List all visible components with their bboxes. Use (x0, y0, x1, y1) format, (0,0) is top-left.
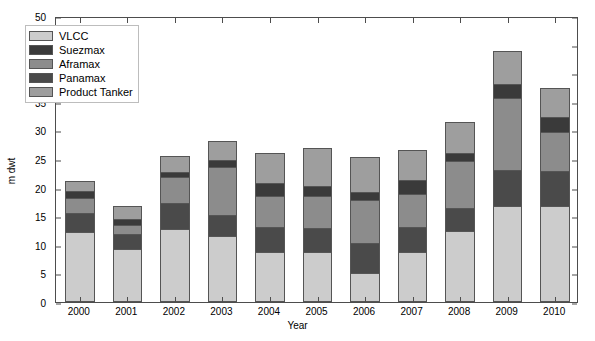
bar-segment[interactable] (350, 200, 379, 243)
bar-segment[interactable] (303, 196, 332, 227)
x-axis-tick-label: 2009 (496, 306, 518, 317)
bar-segment[interactable] (113, 219, 142, 225)
bar-segment[interactable] (398, 252, 427, 302)
legend-item-label: Suezmax (59, 44, 105, 56)
bar-segment[interactable] (113, 225, 142, 234)
bar-segment[interactable] (113, 234, 142, 249)
bar-segment[interactable] (160, 172, 189, 177)
x-axis-tick-mark (80, 297, 81, 302)
bar-stack[interactable] (493, 16, 522, 302)
bar-segment[interactable] (303, 186, 332, 196)
bar-segment[interactable] (398, 194, 427, 227)
legend-item[interactable]: VLCC (29, 29, 133, 43)
bar-segment[interactable] (303, 228, 332, 252)
bar-segment[interactable] (398, 227, 427, 252)
bar-segment[interactable] (255, 153, 284, 183)
legend-item[interactable]: Aframax (29, 57, 133, 71)
bar-segment[interactable] (540, 132, 569, 171)
y-axis-tick-mark (56, 304, 61, 305)
y-axis-tick-mark (56, 103, 61, 104)
bar-segment[interactable] (113, 206, 142, 219)
bar-segment[interactable] (113, 249, 142, 302)
bar-segment[interactable] (540, 171, 569, 206)
bar-segment[interactable] (65, 191, 94, 198)
bar-segment[interactable] (65, 198, 94, 213)
x-axis-tick-mark-top (175, 18, 176, 23)
legend-swatch-aframax (29, 59, 53, 69)
bar-segment[interactable] (445, 208, 474, 231)
y-axis-tick-mark (56, 218, 61, 219)
y-axis-tick-mark (56, 161, 61, 162)
x-axis-tick-mark (175, 297, 176, 302)
bar-segment[interactable] (398, 150, 427, 180)
bar-segment[interactable] (540, 206, 569, 302)
bar-segment[interactable] (65, 232, 94, 302)
bar-stack[interactable] (160, 16, 189, 302)
bar-segment[interactable] (445, 153, 474, 160)
bar-segment[interactable] (493, 51, 522, 84)
bar-segment[interactable] (350, 243, 379, 273)
bar-segment[interactable] (493, 98, 522, 170)
bar-segment[interactable] (255, 252, 284, 302)
y-axis-tick-mark (56, 132, 61, 133)
legend-item[interactable]: Panamax (29, 71, 133, 85)
bar-segment[interactable] (303, 148, 332, 186)
bar-segment[interactable] (445, 122, 474, 153)
bar-segment[interactable] (350, 192, 379, 200)
x-axis-tick-label: 2005 (305, 306, 327, 317)
bar-segment[interactable] (160, 203, 189, 229)
bar-segment[interactable] (208, 160, 237, 167)
y-axis-tick-label: 15 (35, 212, 46, 223)
x-axis-tick-mark-top (80, 18, 81, 23)
legend-item-label: Panamax (59, 72, 105, 84)
bar-segment[interactable] (493, 170, 522, 207)
bar-stack[interactable] (445, 16, 474, 302)
x-axis-tick-mark-top (508, 18, 509, 23)
bar-segment[interactable] (160, 156, 189, 171)
y-axis-tick-label: 0 (40, 298, 46, 309)
bar-segment[interactable] (65, 181, 94, 191)
bar-segment[interactable] (303, 252, 332, 302)
legend-swatch-suezmax (29, 45, 53, 55)
bar-segment[interactable] (208, 215, 237, 236)
bar-segment[interactable] (255, 196, 284, 227)
bar-segment[interactable] (255, 227, 284, 252)
bar-segment[interactable] (65, 213, 94, 232)
x-axis-tick-label: 2003 (210, 306, 232, 317)
bar-segment[interactable] (350, 157, 379, 192)
x-axis-tick-label: 2001 (115, 306, 137, 317)
y-axis-tick-mark-right (572, 218, 577, 219)
bar-segment[interactable] (208, 167, 237, 215)
x-axis-tick-mark (270, 297, 271, 302)
bar-stack[interactable] (540, 16, 569, 302)
bar-segment[interactable] (208, 141, 237, 160)
bar-segment[interactable] (540, 117, 569, 131)
chart-figure: m dwt 05101520253035404550 2000200120022… (0, 0, 595, 341)
y-axis-tick-mark-right (572, 161, 577, 162)
bar-segment[interactable] (255, 183, 284, 196)
y-axis-tick-mark-right (572, 75, 577, 76)
bar-stack[interactable] (350, 16, 379, 302)
bar-stack[interactable] (255, 16, 284, 302)
x-axis-tick-mark (318, 297, 319, 302)
bar-segment[interactable] (208, 236, 237, 302)
bar-segment[interactable] (445, 161, 474, 208)
legend-item[interactable]: Suezmax (29, 43, 133, 57)
bar-stack[interactable] (398, 16, 427, 302)
bar-segment[interactable] (160, 177, 189, 203)
bar-segment[interactable] (493, 206, 522, 302)
bar-segment[interactable] (445, 231, 474, 303)
x-axis-tick-label: 2008 (448, 306, 470, 317)
x-axis-tick-label: 2004 (258, 306, 280, 317)
x-axis-tick-label: 2002 (163, 306, 185, 317)
bar-segment[interactable] (160, 229, 189, 302)
x-axis-tick-mark (555, 297, 556, 302)
bar-segment[interactable] (493, 84, 522, 98)
bar-segment[interactable] (398, 180, 427, 195)
bar-stack[interactable] (303, 16, 332, 302)
bar-stack[interactable] (208, 16, 237, 302)
bar-segment[interactable] (540, 88, 569, 117)
y-axis-tick-mark-right (572, 103, 577, 104)
legend-item[interactable]: Product Tanker (29, 85, 133, 99)
y-axis-tick-mark-right (572, 18, 577, 19)
